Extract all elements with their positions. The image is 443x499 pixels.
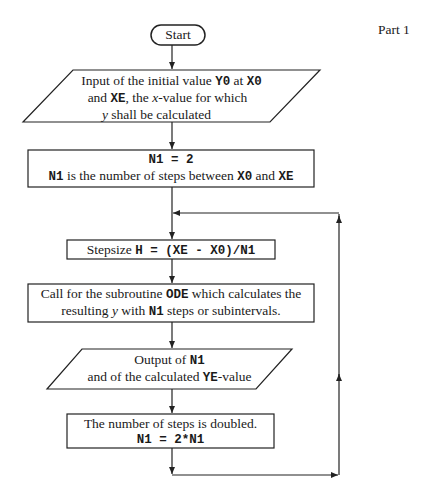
stepsize-text: Stepsize H = (XE - X0)/N1	[67, 242, 275, 259]
double-line-2: N1 = 2*N1	[67, 432, 274, 448]
output-text: Output of N1 and of the calculated YE-va…	[47, 352, 292, 386]
output-line-1: Output of N1	[47, 352, 292, 369]
input-line-2: and XE, the x-value for which	[40, 90, 295, 107]
call-line-1: Call for the subroutine ODE which calcul…	[28, 286, 314, 303]
input-line-1: Input of the initial value Y0 at X0	[48, 73, 295, 90]
input-line-3: y shall be calculated	[18, 107, 295, 123]
output-line-2: and of the calculated YE-value	[47, 369, 292, 386]
init-line-1: N1 = 2	[28, 152, 314, 168]
call-line-2: resulting y with N1 steps or subinterval…	[28, 303, 314, 320]
init-text: N1 = 2 N1 is the number of steps between…	[28, 152, 314, 185]
double-text: The number of steps is doubled. N1 = 2*N…	[67, 416, 274, 448]
call-text: Call for the subroutine ODE which calcul…	[28, 286, 314, 320]
double-line-1: The number of steps is doubled.	[67, 416, 274, 432]
input-text: Input of the initial value Y0 at X0 and …	[48, 73, 295, 123]
start-label: Start	[151, 27, 205, 43]
part-label: Part 1	[378, 22, 410, 38]
init-line-2: N1 is the number of steps between X0 and…	[28, 168, 314, 185]
